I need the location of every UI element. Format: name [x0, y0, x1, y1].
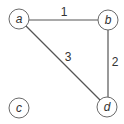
edge-label-a-d: 3: [65, 50, 72, 64]
node-a: a: [9, 9, 29, 29]
node-c: c: [9, 98, 29, 118]
node-c-label: c: [16, 101, 22, 115]
node-b: b: [98, 10, 118, 30]
node-b-label: b: [105, 13, 112, 27]
node-d-label: d: [104, 100, 111, 114]
node-d: d: [97, 97, 117, 117]
node-a-label: a: [16, 12, 23, 26]
edge-label-a-b: 1: [61, 5, 68, 19]
edge-label-b-d: 2: [112, 55, 119, 69]
graph-diagram: 1 2 3 a b c d: [0, 0, 124, 124]
edge-a-d: [26, 26, 100, 100]
